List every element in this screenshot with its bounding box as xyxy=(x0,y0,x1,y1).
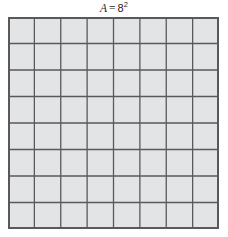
grid-cell xyxy=(166,97,192,124)
grid-cell xyxy=(140,44,166,71)
grid-cell xyxy=(87,123,113,150)
grid-cell xyxy=(61,70,87,97)
grid-cell xyxy=(34,123,60,150)
grid-cell xyxy=(114,123,140,150)
grid-cell xyxy=(34,97,60,124)
grid-cell xyxy=(193,203,219,230)
grid-cell xyxy=(8,203,34,230)
grid-cell xyxy=(87,97,113,124)
grid-cell xyxy=(140,70,166,97)
grid-cell xyxy=(61,17,87,44)
grid-cell xyxy=(8,97,34,124)
grid-cell xyxy=(34,17,60,44)
grid-cell xyxy=(193,70,219,97)
grid-cell xyxy=(114,44,140,71)
grid-cell xyxy=(114,17,140,44)
grid-cell xyxy=(34,70,60,97)
grid-cell xyxy=(140,123,166,150)
grid-cell xyxy=(34,150,60,177)
grid-cell xyxy=(140,17,166,44)
grid-cell xyxy=(61,203,87,230)
grid-cell xyxy=(193,123,219,150)
grid-cell xyxy=(140,176,166,203)
grid-cell xyxy=(34,44,60,71)
grid-cell xyxy=(34,176,60,203)
grid-cell xyxy=(8,123,34,150)
grid-cell xyxy=(193,150,219,177)
grid-cell xyxy=(61,176,87,203)
grid-cell xyxy=(166,70,192,97)
title-exponent: 2 xyxy=(124,0,128,9)
grid-cell xyxy=(87,203,113,230)
grid-cell xyxy=(166,150,192,177)
grid-cell xyxy=(114,150,140,177)
grid-cell xyxy=(8,176,34,203)
grid-cell xyxy=(8,44,34,71)
grid-cell xyxy=(114,203,140,230)
area-model-figure: A=82 xyxy=(0,0,228,237)
grid-cell xyxy=(87,44,113,71)
grid-cell xyxy=(193,176,219,203)
square-grid xyxy=(8,17,219,229)
grid-cell xyxy=(61,123,87,150)
grid-cell xyxy=(61,97,87,124)
grid-cell xyxy=(166,44,192,71)
grid-cell xyxy=(114,176,140,203)
grid-cell xyxy=(140,150,166,177)
grid-cell xyxy=(87,176,113,203)
grid-cell xyxy=(61,150,87,177)
grid-cell xyxy=(34,203,60,230)
grid-cell xyxy=(140,203,166,230)
grid-cell xyxy=(8,150,34,177)
grid-cell xyxy=(166,203,192,230)
grid-cell xyxy=(8,17,34,44)
grid-cell xyxy=(193,44,219,71)
grid-cell xyxy=(8,70,34,97)
grid-cell xyxy=(114,70,140,97)
grid-cell xyxy=(193,17,219,44)
grid-cell xyxy=(87,150,113,177)
figure-title: A=82 xyxy=(0,0,228,16)
grid-svg xyxy=(8,17,219,229)
grid-cell xyxy=(140,97,166,124)
title-equals: = xyxy=(107,2,118,14)
grid-cell xyxy=(166,17,192,44)
grid-cell xyxy=(87,70,113,97)
grid-cell xyxy=(166,123,192,150)
grid-cell xyxy=(166,176,192,203)
grid-cell xyxy=(87,17,113,44)
grid-cell xyxy=(61,44,87,71)
grid-cell xyxy=(114,97,140,124)
grid-cell xyxy=(193,97,219,124)
